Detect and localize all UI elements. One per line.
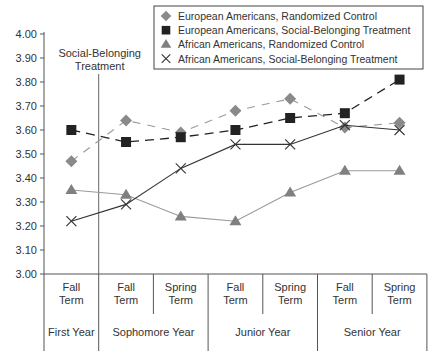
y-tick-label: 3.20 <box>16 220 37 232</box>
diamond-marker <box>229 105 241 117</box>
series-triangle <box>65 165 405 225</box>
triangle-marker <box>229 215 241 225</box>
series-line <box>71 125 399 221</box>
triangle-marker <box>175 210 187 220</box>
legend-label: European Americans, Randomized Control <box>178 10 377 22</box>
series-line <box>71 171 399 221</box>
legend: European Americans, Randomized ControlEu… <box>154 6 423 69</box>
diamond-marker <box>394 117 406 129</box>
square-marker <box>285 113 295 123</box>
x-marker <box>66 216 76 226</box>
square-marker <box>66 125 76 135</box>
year-label: First Year <box>48 326 95 338</box>
y-tick-label: 3.50 <box>16 148 37 160</box>
square-marker <box>340 108 350 118</box>
triangle-marker <box>65 184 77 194</box>
y-tick-label: 3.80 <box>16 76 37 88</box>
category-table: FallTermFallTermSpringTermFallTermSpring… <box>44 274 427 351</box>
square-marker <box>121 137 131 147</box>
term-label: FallTerm <box>59 281 83 306</box>
diamond-marker <box>339 122 351 134</box>
y-tick-label: 3.40 <box>16 172 37 184</box>
diamond-marker <box>120 114 132 126</box>
term-label: FallTerm <box>223 281 247 306</box>
term-label: SpringTerm <box>384 281 416 306</box>
triangle-marker <box>284 186 296 196</box>
legend-label: European Americans, Social-Belonging Tre… <box>178 24 410 36</box>
year-label: Junior Year <box>235 326 290 338</box>
triangle-marker <box>394 165 406 175</box>
legend-item: African Americans, Randomized Control <box>161 38 364 50</box>
triangle-marker <box>120 189 132 199</box>
square-marker <box>230 125 240 135</box>
series-group <box>65 75 405 227</box>
y-tick-label: 3.00 <box>16 268 37 280</box>
y-tick-label: 4.00 <box>16 28 37 40</box>
legend-label: African Americans, Social-Belonging Trea… <box>178 53 398 65</box>
y-tick-label: 3.10 <box>16 244 37 256</box>
series-x <box>66 120 404 226</box>
square-marker <box>162 26 171 35</box>
triangle-marker <box>339 165 351 175</box>
x-marker <box>176 163 186 173</box>
legend-item: European Americans, Social-Belonging Tre… <box>162 24 411 36</box>
year-label: Senior Year <box>344 326 401 338</box>
y-tick-label: 3.90 <box>16 52 37 64</box>
annotation-line2: Treatment <box>75 60 125 72</box>
legend-label: African Americans, Randomized Control <box>178 38 364 50</box>
term-label: SpringTerm <box>165 281 197 306</box>
y-tick-label: 3.30 <box>16 196 37 208</box>
y-tick-label: 3.60 <box>16 124 37 136</box>
annotation-line1: Social-Belonging <box>58 47 141 59</box>
term-label: FallTerm <box>114 281 138 306</box>
y-tick-label: 3.70 <box>16 100 37 112</box>
square-marker <box>176 132 186 142</box>
diamond-marker <box>284 93 296 105</box>
legend-item: African Americans, Social-Belonging Trea… <box>162 53 398 65</box>
term-label: SpringTerm <box>274 281 306 306</box>
year-label: Sophomore Year <box>112 326 194 338</box>
term-label: FallTerm <box>333 281 357 306</box>
gpa-line-chart: 3.003.103.203.303.403.503.603.703.803.90… <box>0 0 440 360</box>
x-marker <box>121 199 131 209</box>
diamond-marker <box>65 155 77 167</box>
legend-item: European Americans, Randomized Control <box>161 10 377 22</box>
square-marker <box>395 75 405 85</box>
